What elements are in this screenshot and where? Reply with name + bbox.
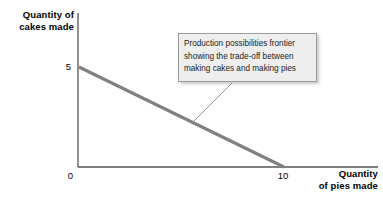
origin-tick-label-0: 0 — [56, 170, 73, 181]
y-axis-tick-label-5: 5 — [54, 61, 71, 72]
callout-leader-line — [192, 83, 232, 123]
x-axis-tick-label-10: 10 — [272, 170, 294, 181]
annotation-callout-text: Production possibilities frontier showin… — [184, 38, 314, 76]
annotation-callout-box: Production possibilities frontier showin… — [178, 33, 317, 82]
y-axis-title: Quantity of cakes made — [8, 9, 74, 33]
ppf-chart-figure: Quantity of cakes made Quantity of pies … — [0, 0, 383, 203]
ppf-line — [79, 67, 284, 167]
x-axis-title: Quantity of pies made — [300, 168, 378, 192]
